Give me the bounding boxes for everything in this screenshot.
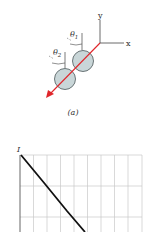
theta2-arc	[52, 63, 65, 64]
theta1-label: θ1	[70, 30, 78, 40]
x-axis-label: x	[126, 39, 131, 48]
figure-b-graph: I	[16, 145, 142, 232]
intensity-curve	[21, 155, 85, 232]
theta2-label: θ2	[53, 48, 62, 58]
figure-canvas: y x θ1 θ2 (a) I	[0, 0, 157, 232]
theta1-arc	[70, 44, 82, 45]
y-axis-label: y	[97, 11, 103, 20]
caption-a: (a)	[67, 108, 78, 117]
grid	[20, 155, 142, 232]
y-axis-label-i: I	[16, 145, 21, 154]
figure-a: y x θ1 θ2 (a)	[46, 11, 131, 117]
